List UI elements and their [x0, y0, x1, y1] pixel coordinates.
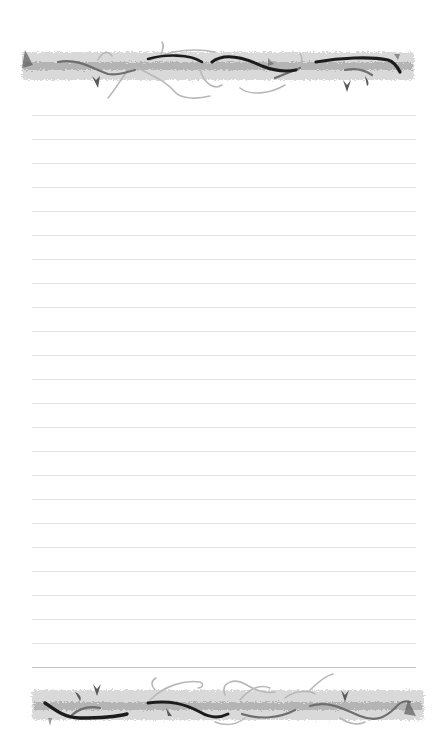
top-vine-border-decoration — [0, 30, 446, 110]
ruled-line — [32, 235, 416, 236]
ruled-line — [32, 571, 416, 572]
ruled-line — [32, 451, 416, 452]
grass-band-core — [34, 702, 422, 710]
ruled-line — [32, 211, 416, 212]
ruled-line-last — [32, 667, 416, 668]
ruled-line — [32, 427, 416, 428]
bottom-vine-border-decoration — [0, 670, 446, 745]
notepaper-page — [0, 0, 446, 749]
ruled-line — [32, 379, 416, 380]
ruled-line — [32, 259, 416, 260]
ruled-line — [32, 187, 416, 188]
ruled-line — [32, 331, 416, 332]
ruled-line — [32, 283, 416, 284]
ruled-line — [32, 523, 416, 524]
ruled-line — [32, 475, 416, 476]
ruled-line — [32, 115, 416, 116]
ruled-line — [32, 499, 416, 500]
ruled-line — [32, 547, 416, 548]
ruled-line — [32, 163, 416, 164]
ruled-line — [32, 139, 416, 140]
ruled-line — [32, 595, 416, 596]
ruled-line — [32, 643, 416, 644]
ruled-line — [32, 619, 416, 620]
ruled-line — [32, 307, 416, 308]
ruled-line — [32, 355, 416, 356]
ruled-line — [32, 403, 416, 404]
